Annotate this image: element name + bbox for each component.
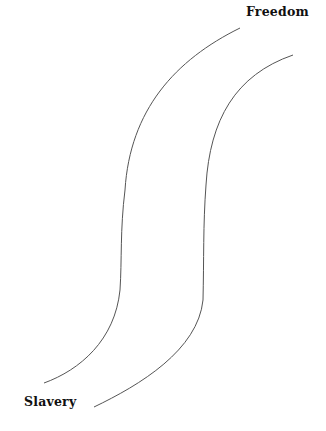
freedom-label: Freedom: [246, 4, 309, 19]
road-right-edge: [94, 55, 293, 407]
slavery-label: Slavery: [24, 394, 76, 409]
road-diagram: [0, 0, 326, 431]
road-left-edge: [44, 28, 240, 383]
